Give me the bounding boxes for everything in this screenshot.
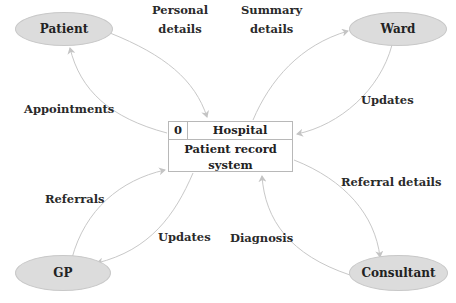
entity-gp-label: GP [53,266,72,280]
flow-appointments [70,48,167,133]
flow-summary-details [253,31,348,120]
label-personal-details: Personal details [152,1,208,39]
entity-gp[interactable]: GP [15,255,111,291]
label-diagnosis: Diagnosis [230,229,293,248]
flow-diagnosis [262,176,350,275]
process-box[interactable]: 0 Hospital Patient record system [168,121,293,172]
flow-personal-details [110,33,207,117]
process-id: 0 [169,122,188,139]
flow-gp-updates [97,173,193,263]
label-summary-details: Summary details [241,1,302,39]
label-referrals: Referrals [45,190,105,209]
process-location: Hospital [188,122,292,139]
entity-consultant-label: Consultant [362,266,436,280]
entity-patient-label: Patient [40,22,88,36]
label-ward-updates: Updates [361,91,414,110]
entity-consultant[interactable]: Consultant [349,255,448,291]
label-referral-details: Referral details [341,173,441,192]
process-name: Patient record system [169,140,292,173]
label-gp-updates: Updates [158,228,211,247]
process-header: 0 Hospital [169,122,292,140]
label-appointments: Appointments [24,100,114,119]
entity-ward-label: Ward [381,22,416,36]
entity-ward[interactable]: Ward [349,12,447,46]
flow-referrals [72,170,165,258]
entity-patient[interactable]: Patient [15,12,113,46]
flow-ward-updates [297,45,392,134]
